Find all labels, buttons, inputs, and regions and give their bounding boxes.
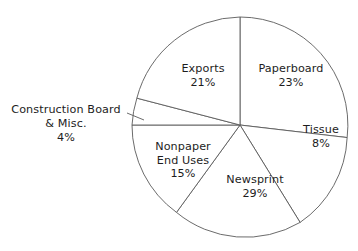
pie-label-nonpaper-end-uses-name: Nonpaper <box>146 140 220 154</box>
pie-label-newsprint: Newsprint 29% <box>214 173 296 200</box>
pie-label-paperboard-name: Paperboard <box>247 62 335 76</box>
pie-label-exports-value: 21% <box>160 76 246 90</box>
pie-label-paperboard: Paperboard 23% <box>247 62 335 89</box>
pie-label-exports: Exports 21% <box>160 62 246 89</box>
pie-label-tissue: Tissue 8% <box>293 123 349 150</box>
pie-label-construction-board: Construction Board & Misc. 4% <box>4 103 128 145</box>
pie-chart-page: Exports 21% Paperboard 23% Tissue 8% New… <box>0 0 358 251</box>
pie-label-newsprint-value: 29% <box>214 187 296 201</box>
pie-label-construction-board-name: Construction Board <box>4 103 128 117</box>
pie-label-construction-board-value: 4% <box>4 131 128 145</box>
pie-label-tissue-value: 8% <box>293 137 349 151</box>
pie-label-nonpaper-end-uses-name2: End Uses <box>146 154 220 168</box>
pie-label-construction-board-name2: & Misc. <box>4 117 128 131</box>
pie-label-nonpaper-end-uses-value: 15% <box>146 167 220 181</box>
pie-label-newsprint-name: Newsprint <box>214 173 296 187</box>
pie-label-exports-name: Exports <box>160 62 246 76</box>
pie-label-nonpaper-end-uses: Nonpaper End Uses 15% <box>146 140 220 181</box>
pie-label-paperboard-value: 23% <box>247 76 335 90</box>
pie-label-tissue-name: Tissue <box>293 123 349 137</box>
